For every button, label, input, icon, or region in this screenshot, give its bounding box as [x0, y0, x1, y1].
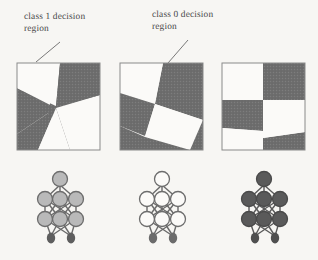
node-hidden [69, 212, 84, 227]
node-hidden [273, 192, 288, 207]
leader-line-class-0 [168, 40, 188, 63]
figure-vector-layer [0, 0, 318, 260]
node-hidden [257, 192, 272, 207]
node-output [53, 172, 68, 187]
node-input [67, 233, 75, 244]
neural-network-diagram-2 [140, 172, 186, 244]
node-output [257, 172, 272, 187]
neural-network-diagram-1 [38, 172, 84, 244]
node-hidden [171, 212, 186, 227]
node-input [149, 233, 157, 244]
node-hidden [53, 212, 68, 227]
node-input [251, 233, 259, 244]
node-hidden [38, 192, 53, 207]
node-hidden [273, 212, 288, 227]
neural-network-diagram-3 [242, 172, 288, 244]
node-hidden [155, 212, 170, 227]
node-input [271, 233, 279, 244]
node-hidden [69, 192, 84, 207]
node-input [47, 233, 55, 244]
node-hidden [242, 212, 257, 227]
node-hidden [53, 192, 68, 207]
node-hidden [257, 212, 272, 227]
node-hidden [140, 192, 155, 207]
node-hidden [242, 192, 257, 207]
node-hidden [38, 212, 53, 227]
node-output [155, 172, 170, 187]
node-input [169, 233, 177, 244]
decision-region-panel-2 [120, 63, 203, 150]
node-hidden [155, 192, 170, 207]
node-hidden [140, 212, 155, 227]
figure-canvas: class 1 decision region class 0 decision… [0, 0, 318, 260]
node-hidden [171, 192, 186, 207]
decision-region-panel-1 [17, 63, 100, 150]
leader-line-class-1 [36, 42, 60, 62]
decision-region-panel-3 [222, 63, 305, 150]
